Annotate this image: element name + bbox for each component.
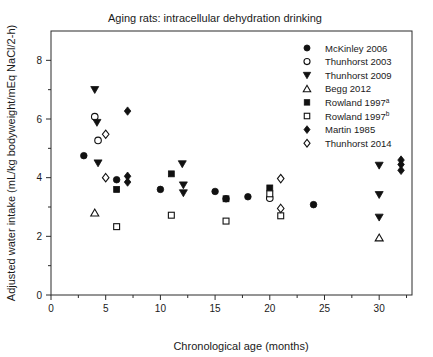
data-point	[267, 185, 273, 191]
x-axis-tick-label: 10	[155, 303, 167, 314]
plot-title-group: Aging rats: intracellular dehydration dr…	[108, 12, 322, 24]
data-point	[375, 234, 383, 241]
data-point	[102, 130, 109, 138]
legend-label: Martin 1985	[325, 124, 375, 135]
data-point	[179, 182, 187, 189]
legend-marker-icon	[304, 100, 309, 105]
legend-label: Rowland 1997a	[325, 97, 390, 109]
legend-marker-icon	[304, 126, 310, 134]
legend-marker-icon	[303, 85, 310, 91]
chart-title: Aging rats: intracellular dehydration dr…	[108, 12, 322, 24]
legend-item: Begg 2012	[303, 83, 371, 94]
legend-marker-icon	[303, 72, 310, 78]
legend-label: Thunhorst 2009	[325, 70, 392, 81]
data-point	[168, 212, 174, 218]
data-point	[267, 191, 273, 197]
legend-marker-icon	[304, 113, 309, 118]
x-axis-tick-label: 25	[319, 303, 331, 314]
data-point	[375, 214, 383, 221]
data-point	[157, 186, 164, 193]
legend-item: Martin 1985	[304, 124, 375, 135]
series-thunhorst-2014	[102, 130, 284, 213]
legend-item: Thunhorst 2009	[303, 70, 391, 81]
data-point	[124, 107, 131, 115]
legend-marker-icon	[304, 59, 310, 65]
y-axis-tick-label: 2	[36, 231, 42, 242]
legend-label: McKinley 2006	[325, 43, 387, 54]
series-begg-2012	[91, 209, 383, 241]
data-point	[91, 87, 99, 94]
x-axis-tick-label: 15	[210, 303, 222, 314]
x-axis-title: Chronological age (months)	[173, 340, 308, 352]
data-point	[91, 209, 99, 216]
data-point	[277, 174, 284, 182]
x-axis-tick-label: 20	[264, 303, 276, 314]
legend-item: Rowland 1997a	[304, 97, 389, 109]
data-point	[310, 201, 317, 208]
legend-label: Thunhorst 2003	[325, 56, 392, 67]
data-point	[81, 152, 88, 159]
data-point	[375, 162, 383, 169]
data-point	[124, 178, 131, 186]
legend-item: Thunhorst 2014	[304, 138, 392, 149]
legend-item: Thunhorst 2003	[304, 56, 392, 67]
data-point	[398, 166, 405, 174]
x-axis-tick-label: 30	[374, 303, 386, 314]
data-point	[223, 218, 229, 224]
legend-marker-icon	[304, 45, 310, 51]
data-point	[94, 160, 102, 167]
figure-container: Aging rats: intracellular dehydration dr…	[0, 0, 433, 357]
data-point	[278, 213, 284, 219]
data-point	[212, 188, 219, 195]
y-axis-tick-label: 6	[36, 114, 42, 125]
data-point	[95, 137, 102, 144]
data-point	[114, 224, 120, 230]
legend-label: Begg 2012	[325, 83, 371, 94]
legend-label: Thunhorst 2014	[325, 138, 392, 149]
data-point	[178, 161, 186, 168]
data-point	[91, 113, 98, 120]
legend-item: McKinley 2006	[304, 43, 387, 54]
series-rowland-1997b	[114, 191, 284, 230]
scatter-plot: Aging rats: intracellular dehydration dr…	[0, 0, 433, 357]
x-axis-tick-label: 5	[103, 303, 109, 314]
data-point	[113, 176, 120, 183]
legend-label: Rowland 1997b	[325, 110, 390, 122]
data-point	[168, 171, 174, 177]
y-axis-tick-label: 8	[36, 55, 42, 66]
data-point	[223, 196, 229, 202]
y-axis-tick-label: 0	[36, 290, 42, 301]
data-point	[277, 204, 284, 212]
legend-item: Rowland 1997b	[304, 110, 389, 122]
data-point	[245, 193, 252, 200]
legend-marker-icon	[304, 139, 310, 147]
y-axis-title: Adjusted water intake (mL/kg bodyweight/…	[5, 25, 17, 301]
data-point	[114, 186, 120, 192]
data-point	[375, 192, 383, 199]
data-point	[102, 173, 109, 181]
plot-legend: McKinley 2006Thunhorst 2003Thunhorst 200…	[303, 43, 391, 149]
data-point	[179, 190, 187, 197]
x-axis-tick-label: 0	[48, 303, 54, 314]
data-point	[93, 119, 101, 126]
y-axis-tick-label: 4	[36, 172, 42, 183]
